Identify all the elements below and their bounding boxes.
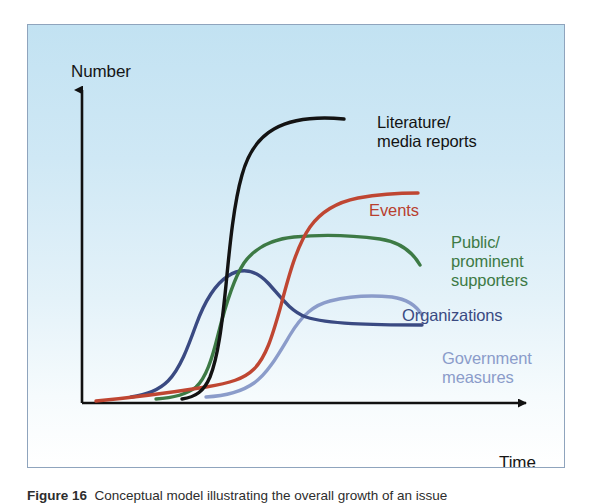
series-label-public-supporters: Public/ prominent supporters [451,233,528,290]
figure-caption-text: Conceptual model illustrating the overal… [95,488,448,503]
series-curve-public-supporters [156,236,420,399]
series-label-literature-media: Literature/ media reports [377,113,477,151]
series-label-government-measures: Government measures [442,349,532,387]
y-axis-label: Number [71,62,131,81]
series-label-events: Events [369,201,419,220]
figure-caption-number: Figure 16 [27,488,87,503]
x-axis-label: Time [499,453,536,468]
series-curve-organizations [131,271,422,397]
series-label-organizations: Organizations [402,306,503,325]
figure-caption: Figure 16 Conceptual model illustrating … [27,487,572,504]
chart-panel: Number Time Literature/ media reports Ev… [27,24,565,468]
series-curve-government-measures [206,296,422,397]
